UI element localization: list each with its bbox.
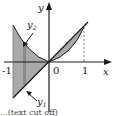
y-axis-arrow-icon [46,2,52,10]
label-y2: y2 [27,20,36,31]
tick-zero: 0 [53,66,59,76]
label-y1: y1 [37,97,46,108]
x-axis-arrow-icon [104,59,112,65]
caption: ...(text cut off) [0,108,131,116]
y-axis-label: y [38,3,44,13]
tick-one: 1 [82,66,88,76]
tick-neg-one: -1 [2,66,12,76]
label-y1-sub: 1 [43,101,47,108]
y2-pointer [25,33,33,44]
strip-rect [23,45,26,85]
label-y2-sub: 2 [33,24,37,31]
diagram-canvas [0,0,131,116]
x-axis-label: x [103,67,109,77]
